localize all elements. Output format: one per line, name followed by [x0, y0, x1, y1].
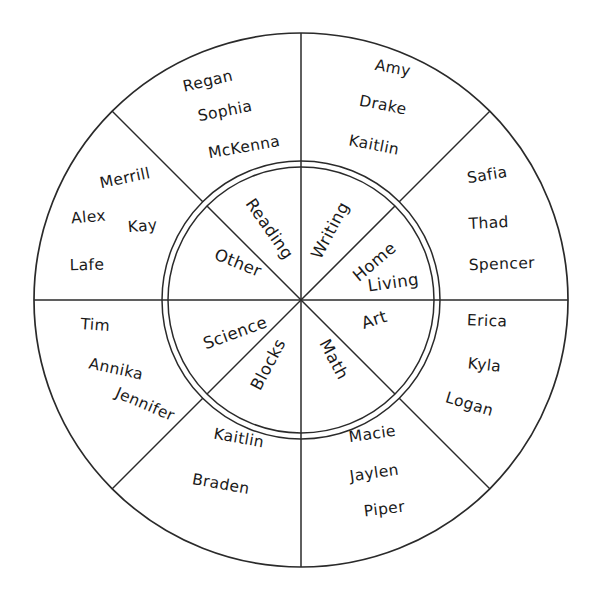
center-label-science: Science [201, 312, 270, 353]
outer-name-art-1: Erica [467, 311, 508, 330]
divider-diagonal-nw-outer [112, 111, 203, 202]
center-label-blocks: Blocks [247, 335, 290, 393]
wheel-canvas: Reading Writing Home Living Other Art Sc… [0, 0, 597, 590]
outer-name-math-2: Jaylen [348, 461, 400, 486]
outer-name-writing-3: Kaitlin [347, 131, 401, 158]
center-label-art: Art [359, 307, 389, 333]
outer-name-science-1: Tim [79, 315, 111, 335]
outer-name-writing-2: Drake [358, 92, 408, 119]
center-label-writing: Writing [307, 199, 353, 262]
divider-diagonal-ne-outer [399, 111, 490, 202]
center-label-other: Other [212, 245, 264, 281]
outer-name-writing-1: Amy [374, 56, 413, 80]
outer-name-other-1: Merrill [98, 164, 152, 192]
outer-name-art-3: Logan [443, 388, 495, 420]
choice-wheel-diagram: Reading Writing Home Living Other Art Sc… [0, 0, 597, 590]
outer-name-math-3: Piper [363, 498, 406, 521]
outer-name-math-1: Macie [348, 422, 397, 446]
outer-name-reading-2: Sophia [196, 97, 254, 125]
outer-name-blocks-2: Braden [191, 470, 251, 498]
outer-name-blocks-1: Kaitlin [212, 425, 265, 452]
outer-name-other-4: Lafe [69, 256, 104, 275]
outer-name-other-3: Kay [127, 216, 158, 237]
outer-name-home-living-1: Safia [466, 163, 509, 187]
center-label-reading: Reading [242, 195, 298, 263]
outer-name-science-3: Jennifer [112, 383, 178, 425]
outer-name-home-living-3: Spencer [468, 254, 535, 274]
outer-name-home-living-2: Thad [467, 213, 509, 233]
outer-name-art-2: Kyla [467, 354, 502, 375]
center-label-math: Math [315, 336, 352, 383]
outer-name-reading-3: McKenna [207, 132, 282, 162]
outer-name-science-2: Annika [87, 355, 145, 384]
outer-name-other-2: Alex [70, 207, 106, 228]
outer-name-reading-1: Regan [181, 67, 235, 96]
